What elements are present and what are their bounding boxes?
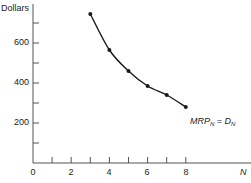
curve-annotation: MRPN = DN	[190, 116, 235, 127]
annotation-equals-d: = D	[214, 116, 231, 126]
chart: Dollars 600 400 200 0 2 4 6 8 N MRPN = D…	[0, 0, 251, 183]
x-tick-label-8: 8	[179, 167, 193, 177]
data-point-marker	[127, 69, 131, 73]
y-axis-label: Dollars	[1, 3, 29, 13]
data-point-marker	[146, 84, 150, 88]
annotation-sub-n-2: N	[231, 121, 235, 127]
data-point-marker	[184, 105, 188, 109]
data-point-marker	[88, 12, 92, 16]
plot-area	[0, 0, 251, 183]
y-tick-label-400: 400	[2, 77, 29, 87]
axes	[33, 4, 251, 163]
x-axis-label: N	[240, 167, 247, 177]
data-point-marker	[165, 93, 169, 97]
mrp-demand-curve	[88, 12, 188, 109]
y-tick-label-200: 200	[2, 117, 29, 127]
curve-line	[90, 14, 186, 107]
x-tick-label-6: 6	[140, 167, 154, 177]
data-point-marker	[107, 48, 111, 52]
x-tick-label-2: 2	[64, 167, 78, 177]
annotation-mrp: MRP	[190, 116, 210, 126]
y-tick-label-600: 600	[2, 37, 29, 47]
x-tick-label-4: 4	[102, 167, 116, 177]
x-tick-label-0: 0	[26, 167, 40, 177]
